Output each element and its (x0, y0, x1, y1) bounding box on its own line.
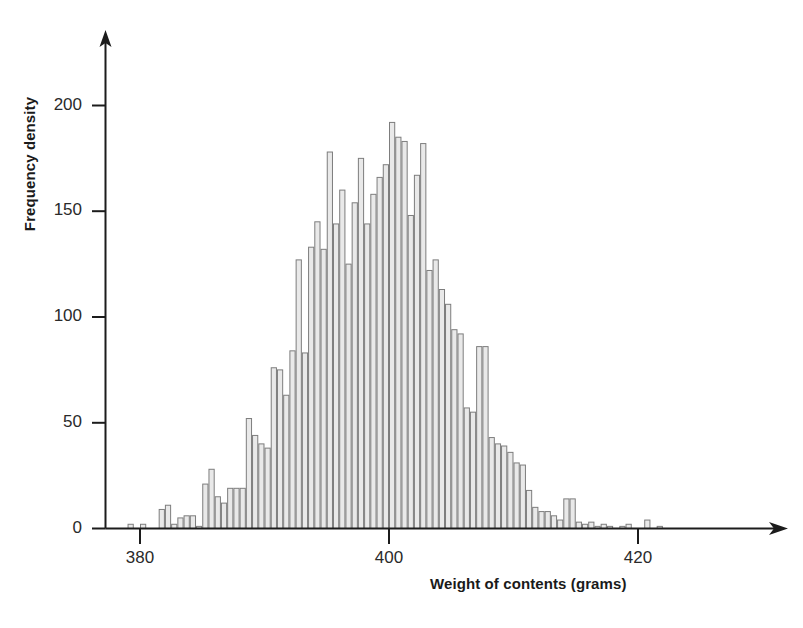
histogram-bar (514, 463, 519, 529)
histogram-bar (340, 190, 345, 528)
histogram-bar (358, 158, 363, 528)
histogram-bar (265, 448, 270, 528)
histogram-bar (551, 516, 556, 529)
x-axis-label: Weight of contents (grams) (430, 575, 770, 593)
histogram-bar (271, 368, 276, 529)
histogram-bar (333, 224, 338, 529)
histogram-bar (520, 465, 525, 528)
histogram-bar (284, 395, 289, 528)
y-tick-label: 50 (36, 412, 82, 432)
histogram-bar (352, 203, 357, 529)
y-axis-label: Frequency density (21, 64, 39, 264)
histogram-bar (483, 347, 488, 529)
histogram-bar (296, 260, 301, 529)
x-axis-label-text: Weight of contents (grams) (430, 575, 627, 592)
histogram-bar (215, 497, 220, 529)
histogram-bar (290, 351, 295, 529)
histogram-bar (539, 512, 544, 529)
histogram-bar (234, 488, 239, 528)
histogram-bar (209, 469, 214, 528)
histogram-bar (371, 194, 376, 528)
histogram-bars (128, 122, 662, 528)
histogram-bar (309, 247, 314, 528)
histogram-bar (302, 353, 307, 529)
histogram-bar (508, 452, 513, 528)
histogram-bar (408, 215, 413, 528)
histogram-bar (178, 518, 183, 529)
histogram-bar (477, 347, 482, 529)
histogram-bar (315, 222, 320, 529)
histogram-bar (377, 177, 382, 528)
histogram-bar (502, 446, 507, 528)
histogram-bar (221, 503, 226, 528)
histogram-bar (439, 290, 444, 529)
histogram-bar (433, 260, 438, 529)
histogram-bar (414, 175, 419, 528)
histogram-bar (421, 144, 426, 529)
histogram-bar (545, 512, 550, 529)
histogram-bar (327, 152, 332, 528)
histogram-bar (240, 488, 245, 528)
histogram-bar (645, 520, 650, 528)
histogram-bar (526, 490, 531, 528)
histogram-bar (346, 264, 351, 528)
y-tick-label: 200 (36, 95, 82, 115)
histogram-bar (402, 141, 407, 528)
histogram-bar (383, 165, 388, 529)
histogram-bar (446, 304, 451, 528)
histogram-bar (365, 224, 370, 529)
y-tick-label: 0 (36, 518, 82, 538)
x-tick-label: 420 (608, 548, 668, 568)
y-tick-marks (92, 106, 106, 529)
x-tick-label: 400 (359, 548, 419, 568)
histogram-bar (165, 505, 170, 528)
histogram-bar (558, 520, 563, 528)
histogram-bar (458, 334, 463, 529)
y-tick-label: 100 (36, 306, 82, 326)
histogram-bar (203, 484, 208, 528)
histogram-bar (390, 122, 395, 528)
histogram-bar (246, 419, 251, 529)
histogram-bar (184, 516, 189, 529)
histogram-bar (452, 330, 457, 529)
histogram-bar (253, 435, 258, 528)
histogram-bar (464, 408, 469, 529)
histogram-bar (228, 488, 233, 528)
histogram-bar (495, 444, 500, 529)
y-tick-label: 150 (36, 200, 82, 220)
x-tick-label: 380 (110, 548, 170, 568)
histogram-bar (159, 509, 164, 528)
histogram-bar (396, 137, 401, 528)
x-tick-marks (140, 529, 638, 545)
histogram-chart: 050100150200 380400420 Frequency density… (0, 0, 803, 628)
histogram-bar (427, 270, 432, 528)
histogram-bar (190, 516, 195, 529)
histogram-bar (470, 412, 475, 528)
y-axis-label-text: Frequency density (21, 97, 38, 231)
histogram-bar (321, 249, 326, 528)
histogram-bar (564, 499, 569, 529)
histogram-bar (489, 438, 494, 529)
histogram-bar (277, 370, 282, 529)
histogram-bar (259, 444, 264, 529)
chart-canvas (0, 0, 803, 628)
histogram-bar (533, 507, 538, 528)
histogram-bar (570, 499, 575, 529)
